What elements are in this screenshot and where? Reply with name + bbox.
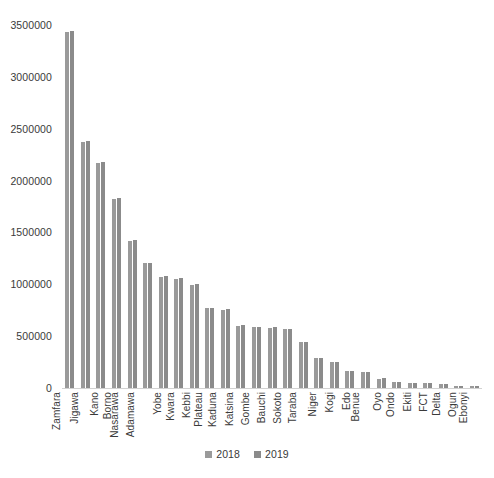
- y-axis: 0500000100000015000002000000250000030000…: [0, 25, 58, 388]
- bar-2019[interactable]: [335, 362, 339, 388]
- bar-2019[interactable]: [133, 240, 137, 388]
- x-axis-tick-label: Adamawa: [125, 392, 136, 437]
- bar-2018[interactable]: [268, 328, 272, 388]
- bar-2018[interactable]: [205, 308, 209, 388]
- bar-group[interactable]: [124, 25, 140, 388]
- x-axis-tick-label: Ogun: [446, 392, 457, 417]
- bar-2018[interactable]: [159, 277, 163, 388]
- bar-group[interactable]: [420, 25, 436, 388]
- bar-group[interactable]: [187, 25, 203, 388]
- bar-group[interactable]: [295, 25, 311, 388]
- bar-group[interactable]: [373, 25, 389, 388]
- chart-legend: 20182019: [0, 448, 494, 460]
- x-axis: ZamfaraJigawaKanoBornoNasarawaAdamawaYob…: [62, 390, 482, 442]
- legend-label: 2018: [216, 448, 240, 460]
- bar-2018[interactable]: [81, 142, 85, 388]
- bar-group[interactable]: [140, 25, 156, 388]
- bar-group[interactable]: [93, 25, 109, 388]
- bar-2018[interactable]: [299, 342, 303, 388]
- bar-group[interactable]: [327, 25, 343, 388]
- bar-2019[interactable]: [101, 162, 105, 388]
- y-axis-tick-label: 2000000: [10, 175, 52, 187]
- bar-2018[interactable]: [174, 279, 178, 388]
- legend-swatch-icon: [205, 451, 212, 458]
- x-axis-tick-label: Ondo: [384, 392, 395, 417]
- bar-2019[interactable]: [366, 372, 370, 388]
- legend-label: 2019: [265, 448, 289, 460]
- bar-2019[interactable]: [304, 342, 308, 388]
- bar-2018[interactable]: [112, 199, 116, 388]
- bar-2018[interactable]: [345, 371, 349, 388]
- bar-2019[interactable]: [179, 278, 183, 388]
- bar-2018[interactable]: [330, 362, 334, 388]
- bar-group[interactable]: [109, 25, 125, 388]
- bar-2019[interactable]: [319, 358, 323, 388]
- bar-2019[interactable]: [210, 308, 214, 388]
- bar-group[interactable]: [249, 25, 265, 388]
- legend-item-2018[interactable]: 2018: [205, 448, 240, 460]
- bar-series-container: [62, 25, 482, 388]
- x-axis-tick-label: FCT: [418, 392, 429, 412]
- x-axis-tick-label: Taraba: [288, 392, 299, 423]
- bar-group[interactable]: [451, 25, 467, 388]
- bar-2019[interactable]: [226, 309, 230, 388]
- bar-2018[interactable]: [361, 372, 365, 388]
- legend-item-2019[interactable]: 2019: [254, 448, 289, 460]
- bar-2018[interactable]: [190, 285, 194, 388]
- x-axis-tick: Kogi: [327, 390, 343, 442]
- x-axis-tick-label: Ebonyi: [459, 392, 470, 423]
- bar-group[interactable]: [436, 25, 452, 388]
- bar-2018[interactable]: [377, 379, 381, 388]
- bar-2019[interactable]: [257, 327, 261, 388]
- bar-2018[interactable]: [96, 163, 100, 388]
- bar-group[interactable]: [342, 25, 358, 388]
- bar-2019[interactable]: [86, 141, 90, 388]
- y-axis-tick-label: 3000000: [10, 71, 52, 83]
- bar-group[interactable]: [280, 25, 296, 388]
- bar-2018[interactable]: [252, 327, 256, 388]
- bar-group[interactable]: [264, 25, 280, 388]
- bar-group[interactable]: [233, 25, 249, 388]
- bar-group[interactable]: [155, 25, 171, 388]
- bar-group[interactable]: [467, 25, 483, 388]
- y-axis-tick-label: 3500000: [10, 19, 52, 31]
- bar-group[interactable]: [78, 25, 94, 388]
- x-axis-tick-label: Niger: [307, 392, 318, 416]
- bar-2019[interactable]: [117, 198, 121, 388]
- bar-2018[interactable]: [283, 329, 287, 388]
- bar-2018[interactable]: [143, 263, 147, 388]
- bar-2019[interactable]: [288, 329, 292, 388]
- bar-2019[interactable]: [195, 284, 199, 388]
- bar-2018[interactable]: [221, 310, 225, 388]
- bar-2019[interactable]: [273, 327, 277, 388]
- bar-2019[interactable]: [241, 325, 245, 388]
- bar-group[interactable]: [202, 25, 218, 388]
- plot-area: [62, 25, 482, 388]
- bar-2019[interactable]: [350, 371, 354, 388]
- bar-2019[interactable]: [70, 31, 74, 388]
- bar-group[interactable]: [358, 25, 374, 388]
- bar-2018[interactable]: [65, 32, 69, 388]
- x-axis-tick-label: Nasarawa: [109, 392, 120, 438]
- bar-2019[interactable]: [148, 263, 152, 388]
- y-axis-tick-label: 1000000: [10, 278, 52, 290]
- x-axis-tick-label: Delta: [431, 392, 442, 416]
- x-axis-tick-label: Benue: [351, 392, 362, 421]
- x-axis-tick-label: Yobe: [152, 392, 163, 415]
- bar-2018[interactable]: [236, 326, 240, 388]
- bar-group[interactable]: [62, 25, 78, 388]
- bar-group[interactable]: [311, 25, 327, 388]
- x-axis-tick-label: Plateau: [193, 392, 204, 427]
- bar-group[interactable]: [404, 25, 420, 388]
- bar-group[interactable]: [389, 25, 405, 388]
- bar-group[interactable]: [171, 25, 187, 388]
- bar-2018[interactable]: [128, 241, 132, 388]
- x-axis-baseline: [62, 388, 482, 389]
- legend-swatch-icon: [254, 451, 261, 458]
- bar-group[interactable]: [218, 25, 234, 388]
- bar-2019[interactable]: [164, 276, 168, 388]
- bar-2018[interactable]: [314, 358, 318, 388]
- bar-chart: 0500000100000015000002000000250000030000…: [0, 0, 494, 478]
- y-axis-tick-label: 1500000: [10, 226, 52, 238]
- bar-2019[interactable]: [382, 378, 386, 388]
